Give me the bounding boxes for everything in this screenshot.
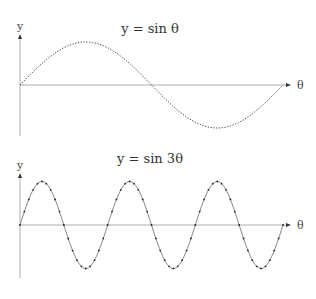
data-point-marker bbox=[107, 224, 109, 226]
data-point-marker bbox=[238, 224, 240, 226]
data-point-marker bbox=[199, 211, 201, 213]
data-point-marker bbox=[120, 189, 122, 191]
data-point-marker bbox=[59, 211, 61, 213]
data-point-marker bbox=[221, 183, 223, 185]
data-point-marker bbox=[133, 183, 135, 185]
data-point-marker bbox=[72, 250, 74, 252]
data-point-marker bbox=[85, 268, 87, 270]
data-point-marker bbox=[260, 268, 262, 270]
data-point-marker bbox=[173, 268, 175, 270]
data-point-marker bbox=[142, 199, 144, 201]
data-point-marker bbox=[256, 265, 258, 267]
data-point-marker bbox=[265, 265, 267, 267]
data-point-marker bbox=[225, 189, 227, 191]
data-point-marker bbox=[23, 211, 25, 213]
data-point-marker bbox=[37, 183, 39, 185]
data-point-marker bbox=[102, 238, 104, 240]
data-point-marker bbox=[216, 181, 218, 183]
data-point-marker bbox=[129, 181, 131, 183]
data-point-marker bbox=[67, 238, 69, 240]
data-point-marker bbox=[94, 259, 96, 261]
sine-charts: y = sin θ y θ y = sin 3θ y θ bbox=[0, 0, 316, 299]
data-point-marker bbox=[177, 265, 179, 267]
data-point-marker bbox=[273, 250, 275, 252]
data-point-marker bbox=[194, 224, 196, 226]
data-point-marker bbox=[159, 250, 161, 252]
plot-title: y = sin 3θ bbox=[116, 151, 183, 166]
data-point-marker bbox=[168, 265, 170, 267]
data-point-marker bbox=[186, 250, 188, 252]
plot-title: y = sin θ bbox=[120, 21, 179, 36]
data-point-marker bbox=[282, 224, 284, 226]
data-point-marker bbox=[80, 265, 82, 267]
data-point-marker bbox=[243, 238, 245, 240]
data-point-marker bbox=[146, 211, 148, 213]
plot-sin-3theta: y = sin 3θ y θ bbox=[16, 151, 304, 278]
data-point-marker bbox=[164, 259, 166, 261]
data-point-marker bbox=[247, 250, 249, 252]
y-axis-label: y bbox=[16, 20, 24, 33]
x-axis-arrow-icon bbox=[286, 83, 291, 87]
x-axis-arrow-icon bbox=[286, 223, 291, 227]
plot-sin-theta: y = sin θ y θ bbox=[16, 20, 304, 136]
data-point-marker bbox=[155, 238, 157, 240]
data-point-marker bbox=[181, 259, 183, 261]
data-point-marker bbox=[98, 250, 100, 252]
data-point-marker bbox=[137, 189, 139, 191]
x-axis-label: θ bbox=[297, 79, 304, 92]
data-point-marker bbox=[28, 199, 30, 201]
data-point-marker bbox=[111, 211, 113, 213]
data-point-marker bbox=[278, 238, 280, 240]
data-point-marker bbox=[41, 181, 43, 183]
y-axis-arrow-icon bbox=[18, 34, 22, 39]
data-point-marker bbox=[32, 189, 34, 191]
data-point-marker bbox=[76, 259, 78, 261]
data-point-marker bbox=[151, 224, 153, 226]
data-point-marker bbox=[208, 189, 210, 191]
data-point-marker bbox=[269, 259, 271, 261]
y-axis-arrow-icon bbox=[18, 173, 22, 178]
data-point-marker bbox=[50, 189, 52, 191]
data-point-marker bbox=[89, 265, 91, 267]
data-point-marker bbox=[45, 183, 47, 185]
data-point-marker bbox=[190, 238, 192, 240]
data-point-marker bbox=[124, 183, 126, 185]
data-point-marker bbox=[251, 259, 253, 261]
y-axis-label: y bbox=[16, 159, 24, 172]
data-point-marker bbox=[212, 183, 214, 185]
data-point-marker bbox=[203, 199, 205, 201]
data-point-marker bbox=[230, 199, 232, 201]
data-point-marker bbox=[116, 199, 118, 201]
data-point-marker bbox=[63, 224, 65, 226]
data-point-marker bbox=[19, 224, 21, 226]
data-point-marker bbox=[54, 199, 56, 201]
data-point-marker bbox=[234, 211, 236, 213]
x-axis-label: θ bbox=[297, 219, 304, 232]
